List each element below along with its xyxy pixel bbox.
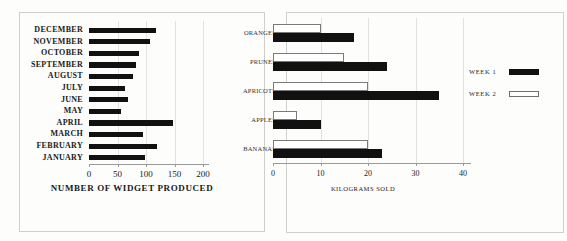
- category-label-bananas: BANANAS: [219, 146, 276, 153]
- bar-december: [89, 28, 156, 33]
- legend-item-week-1: WEEK 1: [469, 68, 539, 75]
- bar-week1-oranges: [273, 33, 354, 42]
- gridline-200: [203, 21, 204, 164]
- right-panel-frame: [286, 12, 564, 233]
- category-label-december: DECEMBER: [0, 26, 83, 34]
- legend-label-week-2: WEEK 2: [469, 90, 503, 97]
- legend-swatch-week-1: [509, 69, 539, 75]
- bar-july: [89, 86, 125, 91]
- category-label-oranges: ORANGES: [219, 30, 276, 37]
- bar-february: [89, 144, 157, 149]
- x-tick-label-150: 150: [159, 169, 191, 179]
- category-label-september: SEPTEMBER: [0, 61, 83, 69]
- category-label-june: JUNE: [0, 96, 83, 104]
- x-axis-line: [89, 164, 209, 165]
- bar-week2-apples: [273, 111, 297, 120]
- category-label-february: FEBRUARY: [0, 142, 83, 150]
- category-label-apples: APPLES: [219, 117, 276, 124]
- legend-label-week-1: WEEK 1: [469, 68, 503, 75]
- category-label-march: MARCH: [0, 130, 83, 138]
- x-tick-30: [416, 163, 417, 166]
- bar-october: [89, 51, 139, 56]
- category-label-april: APRIL: [0, 119, 83, 127]
- bar-week2-apricots: [273, 82, 368, 91]
- category-label-prunes: PRUNES: [219, 59, 276, 66]
- gridline-40: [463, 18, 464, 163]
- legend-item-week-2: WEEK 2: [469, 90, 539, 97]
- x-tick-0: [89, 164, 90, 167]
- right-chart-panel: ORANGESPRUNESAPRICOTSAPPLESBANANAS010203…: [284, 0, 567, 241]
- x-tick-20: [368, 163, 369, 166]
- x-tick-0: [273, 163, 274, 166]
- bar-august: [89, 74, 133, 79]
- bar-september: [89, 62, 136, 67]
- x-tick-10: [321, 163, 322, 166]
- bar-june: [89, 97, 128, 102]
- bar-may: [89, 109, 121, 114]
- x-tick-label-0: 0: [257, 169, 289, 178]
- bar-week2-bananas: [273, 140, 368, 149]
- x-tick-label-10: 10: [305, 169, 337, 178]
- x-tick-label-30: 30: [400, 169, 432, 178]
- bar-week1-prunes: [273, 62, 387, 71]
- bar-week1-bananas: [273, 149, 382, 158]
- category-label-october: OCTOBER: [0, 49, 83, 57]
- legend-swatch-week-2: [509, 91, 539, 97]
- x-tick-label-200: 200: [187, 169, 219, 179]
- x-tick-label-20: 20: [352, 169, 384, 178]
- x-axis-line: [273, 163, 471, 164]
- category-label-august: AUGUST: [0, 72, 83, 80]
- gridline-150: [175, 21, 176, 164]
- bar-march: [89, 132, 143, 137]
- x-tick-200: [203, 164, 204, 167]
- bar-week1-apricots: [273, 91, 439, 100]
- bar-november: [89, 39, 150, 44]
- x-tick-150: [175, 164, 176, 167]
- x-tick-label-50: 50: [102, 169, 134, 179]
- x-axis-title: NUMBER OF WIDGET PRODUCED: [22, 183, 242, 193]
- category-label-may: MAY: [0, 107, 83, 115]
- x-tick-40: [463, 163, 464, 166]
- x-tick-50: [118, 164, 119, 167]
- bar-april: [89, 120, 173, 125]
- bar-week2-oranges: [273, 24, 321, 33]
- bar-week2-prunes: [273, 53, 344, 62]
- x-tick-100: [146, 164, 147, 167]
- x-axis-title: KILOGRAMS SOLD: [263, 185, 463, 192]
- x-tick-label-40: 40: [447, 169, 479, 178]
- category-label-november: NOVEMBER: [0, 38, 83, 46]
- bar-week1-apples: [273, 120, 321, 129]
- category-label-apricots: APRICOTS: [219, 88, 276, 95]
- category-label-july: JULY: [0, 84, 83, 92]
- x-tick-label-0: 0: [73, 169, 105, 179]
- x-tick-label-100: 100: [130, 169, 162, 179]
- bar-january: [89, 155, 145, 160]
- category-label-january: JANUARY: [0, 154, 83, 162]
